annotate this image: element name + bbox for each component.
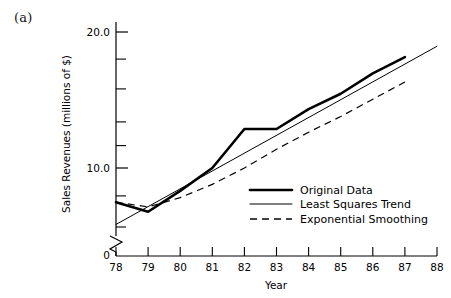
y-axis-title: Sales Revenues (millions of $) [60, 55, 72, 213]
x-tick-label-86: 86 [366, 261, 380, 273]
legend-label-original-data: Original Data [300, 184, 373, 197]
figure-panel-a: (a) 20.0 10.0 Sales Revenues (millions o… [0, 0, 451, 298]
legend-item-least-squares-trend: Least Squares Trend [250, 198, 411, 211]
x-tick-label-87: 87 [398, 261, 411, 273]
legend-label-least-squares-trend: Least Squares Trend [300, 198, 411, 211]
legend-item-exponential-smoothing: Exponential Smoothing [250, 213, 428, 226]
origin-zero-label: 0 [103, 249, 110, 261]
legend-item-original-data: Original Data [250, 184, 373, 197]
legend-label-exponential-smoothing: Exponential Smoothing [300, 213, 428, 226]
x-tick-label-88: 88 [430, 261, 443, 273]
x-tick-label-83: 83 [270, 261, 283, 273]
y-tick-label-10: 10.0 [87, 162, 110, 174]
x-axis-ticks: 78 79 80 81 82 83 84 85 86 87 88 [109, 247, 443, 273]
x-tick-label-82: 82 [238, 261, 251, 273]
x-tick-label-85: 85 [334, 261, 347, 273]
x-tick-label-78: 78 [109, 261, 122, 273]
x-tick-label-80: 80 [174, 261, 187, 273]
sales-revenue-log-chart: 20.0 10.0 Sales Revenues (millions of $)… [0, 0, 451, 298]
chart-legend: Original Data Least Squares Trend Expone… [250, 184, 428, 226]
x-tick-label-81: 81 [206, 261, 219, 273]
x-tick-label-84: 84 [302, 261, 316, 273]
y-tick-label-20: 20.0 [87, 26, 110, 38]
x-tick-label-79: 79 [141, 261, 154, 273]
x-axis-title: Year [264, 279, 288, 291]
y-axis-major-ticks: 20.0 10.0 [87, 26, 128, 174]
